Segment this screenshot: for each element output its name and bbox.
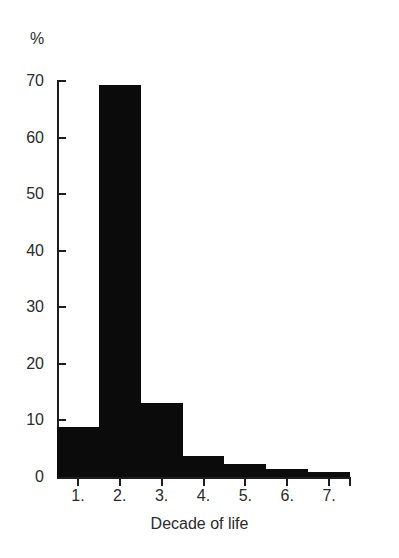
y-tick-label: 60 — [0, 129, 44, 147]
y-tick-label: 10 — [0, 411, 44, 429]
x-tick-6 — [286, 477, 288, 486]
y-tick-50 — [57, 193, 66, 195]
x-tick-label: 5. — [230, 487, 260, 505]
x-axis-title: Decade of life — [0, 515, 399, 533]
x-tick-2 — [119, 477, 121, 486]
bar-decade-1 — [57, 427, 99, 477]
y-axis-unit-label: % — [30, 30, 45, 48]
y-tick-label: 50 — [0, 185, 44, 203]
bar-decade-3 — [141, 403, 183, 477]
bar-decade-7 — [308, 472, 350, 477]
x-tick-label: 4. — [189, 487, 219, 505]
y-tick-label: 40 — [0, 242, 44, 260]
y-tick-20 — [57, 363, 66, 365]
y-tick-10 — [57, 419, 66, 421]
x-tick-label: 1. — [63, 487, 93, 505]
bar-decade-5 — [224, 464, 266, 477]
histogram-chart: % 010203040506070 1.2.3.4.5.6.7. Decade … — [0, 0, 399, 558]
x-tick-end — [349, 477, 351, 486]
x-tick-5 — [244, 477, 246, 486]
y-tick-30 — [57, 306, 66, 308]
bar-decade-2 — [99, 85, 141, 477]
x-tick-7 — [328, 477, 330, 486]
x-tick-3 — [161, 477, 163, 486]
y-tick-label: 20 — [0, 355, 44, 373]
y-tick-70 — [57, 80, 66, 82]
x-tick-4 — [203, 477, 205, 486]
x-tick-label: 6. — [272, 487, 302, 505]
x-tick-label: 2. — [105, 487, 135, 505]
bar-decade-4 — [183, 456, 225, 477]
x-tick-label: 3. — [147, 487, 177, 505]
x-tick-label: 7. — [314, 487, 344, 505]
x-tick-1 — [77, 477, 79, 486]
y-tick-40 — [57, 250, 66, 252]
bar-decade-6 — [266, 469, 308, 477]
y-tick-label: 70 — [0, 72, 44, 90]
y-tick-label: 0 — [0, 468, 44, 486]
y-tick-60 — [57, 137, 66, 139]
y-tick-label: 30 — [0, 298, 44, 316]
